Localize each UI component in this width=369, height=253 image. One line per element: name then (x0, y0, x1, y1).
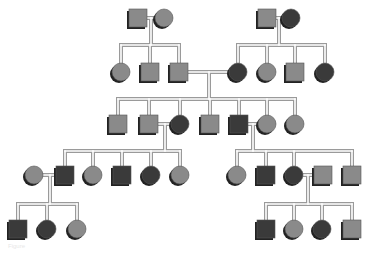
male-unaffected-symbol (256, 9, 276, 29)
female-unaffected-symbol (256, 63, 276, 83)
female-unaffected-symbol (256, 115, 276, 135)
female-affected-symbol (280, 9, 300, 29)
female-unaffected-symbol (284, 115, 304, 135)
male-affected-symbol (54, 166, 74, 186)
female-affected-symbol (314, 63, 334, 83)
pedigree-chart (0, 0, 369, 253)
female-unaffected-symbol (66, 220, 86, 240)
male-unaffected-symbol (107, 115, 127, 135)
female-affected-symbol (227, 63, 247, 83)
male-affected-symbol (111, 166, 131, 186)
female-unaffected-symbol (153, 9, 173, 29)
male-affected-symbol (255, 166, 275, 186)
male-affected-symbol (7, 220, 27, 240)
male-unaffected-symbol (168, 63, 188, 83)
male-unaffected-symbol (284, 63, 304, 83)
female-affected-symbol (36, 220, 56, 240)
female-affected-symbol (283, 166, 303, 186)
male-unaffected-symbol (139, 63, 159, 83)
female-unaffected-symbol (226, 166, 246, 186)
male-unaffected-symbol (199, 115, 219, 135)
male-unaffected-symbol (127, 9, 147, 29)
female-unaffected-symbol (82, 166, 102, 186)
female-affected-symbol (169, 115, 189, 135)
figure-caption: Figure (8, 243, 25, 249)
female-unaffected-symbol (169, 166, 189, 186)
female-unaffected-symbol (23, 166, 43, 186)
male-affected-symbol (255, 220, 275, 240)
female-unaffected-symbol (283, 220, 303, 240)
female-unaffected-symbol (110, 63, 130, 83)
female-affected-symbol (140, 166, 160, 186)
male-unaffected-symbol (138, 115, 158, 135)
male-unaffected-symbol (341, 166, 361, 186)
male-unaffected-symbol (312, 166, 332, 186)
female-affected-symbol (311, 220, 331, 240)
male-affected-symbol (228, 115, 248, 135)
male-unaffected-symbol (341, 220, 361, 240)
